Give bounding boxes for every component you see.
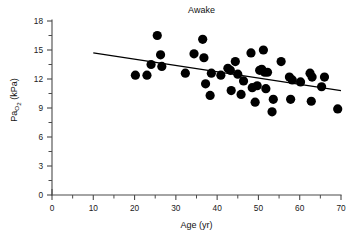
data-point (246, 48, 255, 57)
data-point (216, 71, 225, 80)
data-point (236, 90, 245, 99)
chart-title: Awake (188, 5, 215, 15)
chart-figure: 0369121518010203040506070AwakeAge (yr)Pa… (0, 0, 358, 243)
x-tick-label: 60 (295, 203, 305, 213)
data-point (156, 50, 165, 59)
x-tick-label: 70 (336, 203, 346, 213)
data-point (286, 95, 295, 104)
data-point (199, 53, 208, 62)
y-tick-label: 0 (38, 190, 43, 200)
data-point (261, 84, 270, 93)
data-point (333, 104, 342, 113)
data-point (277, 57, 286, 66)
data-point (206, 91, 215, 100)
data-point (142, 71, 151, 80)
data-point (317, 82, 326, 91)
data-point (308, 72, 317, 81)
y-tick-label: 6 (38, 132, 43, 142)
scatter-plot: 0369121518010203040506070AwakeAge (yr)Pa… (0, 0, 358, 243)
y-axis-title: PaO2 (kPa) (9, 78, 22, 121)
data-point (146, 60, 155, 69)
y-tick-label: 12 (34, 74, 44, 84)
data-point (198, 35, 207, 44)
x-axis-title: Age (yr) (180, 220, 212, 230)
data-point (267, 107, 276, 116)
data-point (296, 77, 305, 86)
x-tick-label: 50 (254, 203, 264, 213)
data-point (207, 69, 216, 78)
y-axis-title-group: PaO2 (kPa) (9, 78, 22, 121)
x-tick-label: 10 (89, 203, 99, 213)
data-point (251, 98, 260, 107)
data-point (259, 45, 268, 54)
data-point (189, 49, 198, 58)
data-point (181, 69, 190, 78)
y-tick-label: 9 (38, 103, 43, 113)
y-tick-label: 3 (38, 161, 43, 171)
data-point (269, 95, 278, 104)
data-point (288, 75, 297, 84)
data-point (263, 68, 272, 77)
data-point (131, 71, 140, 80)
data-point (157, 62, 166, 71)
x-tick-label: 30 (171, 203, 181, 213)
data-point (231, 57, 240, 66)
x-tick-label: 0 (50, 203, 55, 213)
y-tick-label: 18 (34, 16, 44, 26)
data-point (227, 86, 236, 95)
data-point (307, 97, 316, 106)
y-tick-label: 15 (34, 45, 44, 55)
data-point (239, 76, 248, 85)
data-point (201, 79, 210, 88)
data-point (320, 72, 329, 81)
data-point (153, 31, 162, 40)
x-tick-label: 40 (213, 203, 223, 213)
data-point (253, 81, 262, 90)
x-tick-label: 20 (130, 203, 140, 213)
